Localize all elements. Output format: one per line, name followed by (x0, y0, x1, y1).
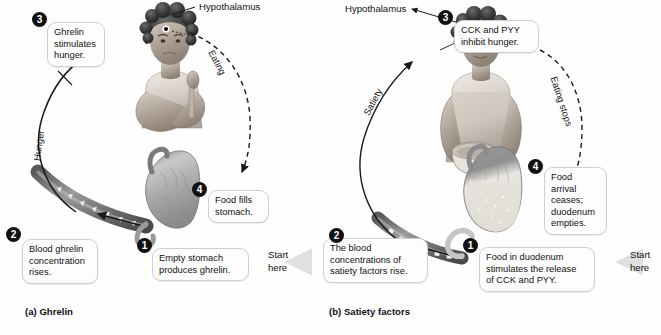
callout-step-4: Food arrival ceases; duodenum empties. (544, 167, 607, 235)
hypothalamus-label: Hypothalamus (345, 3, 406, 15)
step-badge-3: 3 (32, 12, 47, 27)
callout-step-1: Empty stomach produces ghrelin. (152, 248, 249, 281)
callout-step-1: Food in duodenum stimulates the release … (479, 247, 595, 292)
start-here-label: Start here (630, 249, 650, 274)
hypothalamus-label: Hypothalamus (199, 1, 260, 13)
callout-step-2: Blood ghrelin concentration rises. (22, 239, 98, 284)
cycle-label-satiety: Satiety (361, 87, 384, 117)
step-badge-4: 4 (192, 182, 207, 197)
panel-satiety-factors: 3 CCK and PYY inhibit hunger. 2 The bloo… (331, 0, 661, 335)
step-badge-1: 1 (137, 238, 152, 253)
start-here-label: Start here (268, 249, 288, 274)
step-badge-4: 4 (528, 159, 543, 174)
cycle-label-eating: Eating (206, 48, 228, 77)
cycle-label-hunger: Hunger (31, 130, 46, 162)
panel-caption-b: (b) Satiety factors (329, 306, 410, 317)
callout-step-3: Ghrelin stimulates hunger. (47, 22, 105, 67)
cycle-label-eating-stops: Eating stops (549, 75, 575, 127)
callout-step-4: Food fills stomach. (208, 190, 269, 223)
step-badge-2: 2 (6, 227, 21, 242)
step-badge-1: 1 (463, 238, 478, 253)
panel-ghrelin: 3 Ghrelin stimulates hunger. 2 Blood ghr… (0, 0, 330, 335)
panel-caption-a: (a) Ghrelin (25, 306, 73, 317)
callout-step-2: The blood concentrations of satiety fact… (323, 238, 428, 283)
step-badge-3: 3 (438, 10, 453, 25)
callout-step-3: CCK and PYY inhibit hunger. (454, 20, 539, 53)
step-badge-2: 2 (329, 228, 344, 243)
